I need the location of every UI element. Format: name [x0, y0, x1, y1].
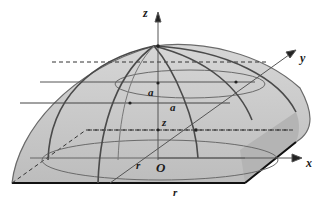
label-a-lower: a	[170, 101, 176, 113]
x-arrow-icon	[292, 154, 302, 162]
z-arrow-icon	[155, 12, 161, 22]
y-arrow-icon	[286, 50, 296, 58]
y-axis-label: y	[298, 51, 306, 65]
diagram-canvas: z y x a a z r O r	[0, 0, 321, 210]
z-axis-label: z	[142, 6, 148, 20]
label-r-base: r	[136, 159, 141, 171]
label-origin: O	[156, 160, 166, 175]
vault-diagram: z y x a a z r O r	[0, 0, 321, 210]
x-axis-label: x	[305, 156, 312, 170]
label-r-front: r	[173, 186, 178, 198]
label-a-upper: a	[148, 86, 154, 98]
label-z-height: z	[161, 116, 167, 128]
